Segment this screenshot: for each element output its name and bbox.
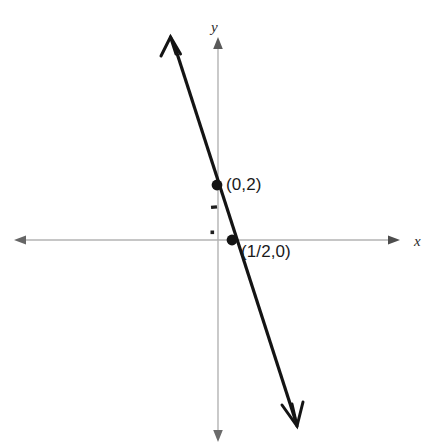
point-label-x-intercept: (1/2,0) (241, 243, 291, 260)
x-axis-arrow-right-icon (388, 235, 400, 244)
coordinate-plane-canvas (0, 0, 434, 448)
point-marker-x-intercept (227, 235, 238, 246)
x-axis-label: x (414, 234, 421, 249)
y-axis-arrow-down-icon (213, 430, 223, 442)
point-label-y-intercept: (0,2) (226, 176, 261, 193)
plotted-line-group (161, 37, 303, 426)
graph-figure: y x (0,2) (1/2,0) (0, 0, 434, 448)
point-marker-y-intercept (212, 180, 223, 191)
tick-mark-upper (211, 205, 217, 209)
tick-mark-lower (211, 231, 215, 235)
y-axis-label: y (211, 20, 218, 35)
x-axis-group (14, 235, 400, 244)
x-axis-arrow-left-icon (14, 235, 26, 244)
y-axis-arrow-up-icon (213, 37, 223, 49)
plotted-line (174, 44, 295, 419)
tick-marks-group (211, 205, 218, 234)
